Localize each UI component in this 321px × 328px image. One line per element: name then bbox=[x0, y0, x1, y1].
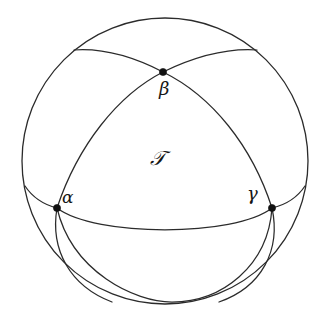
arc-equator-front bbox=[57, 208, 272, 230]
arc-alpha-lower bbox=[56, 208, 112, 302]
vertex-dot-alpha bbox=[53, 204, 60, 211]
arc-beta-upper-right bbox=[163, 50, 257, 72]
vertex-label-alpha: α bbox=[62, 189, 73, 206]
arc-equator-right-tail bbox=[272, 186, 305, 208]
vertex-label-gamma: γ bbox=[247, 185, 258, 203]
figure-canvas: α β γ 𝒯 bbox=[0, 0, 321, 328]
vertex-label-beta: β bbox=[159, 80, 169, 98]
vertex-dot-gamma bbox=[268, 204, 275, 211]
arc-beta-upper-left bbox=[74, 50, 163, 72]
arc-equator-left-tail bbox=[25, 186, 57, 208]
arc-gamma-lower bbox=[219, 208, 274, 302]
region-label-T: 𝒯 bbox=[150, 148, 166, 168]
vertex-dot-beta bbox=[159, 68, 166, 75]
